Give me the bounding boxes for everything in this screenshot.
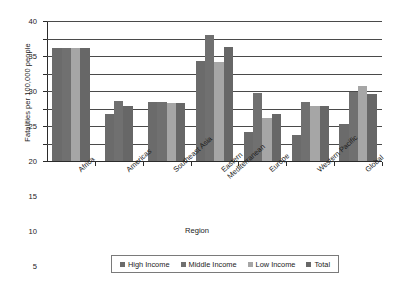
bar-group	[148, 21, 185, 161]
bar	[157, 102, 166, 161]
legend-label: High Income	[128, 260, 170, 269]
legend-swatch-icon	[306, 262, 311, 267]
y-tick-label: 30	[29, 87, 37, 96]
chart-legend: High IncomeMiddle IncomeLow IncomeTotal	[111, 255, 339, 273]
bar	[62, 48, 71, 161]
legend-swatch-icon	[181, 262, 186, 267]
legend-item[interactable]: High Income	[120, 260, 170, 269]
legend-item[interactable]: Middle Income	[181, 260, 237, 269]
bar	[123, 106, 132, 161]
y-tick-label: 5	[33, 262, 37, 271]
legend-item[interactable]: Total	[306, 260, 330, 269]
bar	[349, 92, 358, 161]
legend-label: Low Income	[256, 260, 296, 269]
y-tick-mark: 35	[43, 39, 47, 40]
y-tick-mark: 0	[43, 161, 47, 162]
y-tick-mark: 5	[43, 144, 47, 145]
legend-label: Middle Income	[189, 260, 237, 269]
chart-figure: Fatalities per 100,000 people 0510152025…	[0, 0, 394, 296]
bar	[224, 47, 233, 161]
bar	[80, 48, 89, 161]
bar-group	[52, 21, 89, 161]
bar	[176, 103, 185, 161]
y-tick-mark: 10	[43, 126, 47, 127]
y-tick-label: 15	[29, 192, 37, 201]
bar	[52, 48, 61, 161]
legend-swatch-icon	[120, 262, 125, 267]
bar	[367, 94, 376, 161]
bar	[105, 114, 114, 161]
y-tick-label: 20	[29, 157, 37, 166]
bar	[114, 101, 123, 161]
bar	[71, 48, 80, 161]
y-tick-label: 40	[29, 17, 37, 26]
y-tick-label: 25	[29, 122, 37, 131]
bar-group	[292, 21, 329, 161]
bar	[301, 102, 310, 161]
legend-label: Total	[314, 260, 330, 269]
y-tick-mark: 40	[43, 21, 47, 22]
y-tick-mark: 20	[43, 91, 47, 92]
bar	[320, 106, 329, 161]
bar	[358, 86, 367, 161]
x-axis-title: Region	[0, 226, 394, 235]
y-tick-label: 35	[29, 52, 37, 61]
bar-group	[105, 21, 133, 161]
bar	[310, 106, 319, 161]
y-tick-mark: 30	[43, 56, 47, 57]
y-tick-mark: 25	[43, 74, 47, 75]
legend-item[interactable]: Low Income	[248, 260, 296, 269]
bar	[167, 103, 176, 161]
bar	[262, 118, 271, 161]
legend-swatch-icon	[248, 262, 253, 267]
bar	[292, 135, 301, 161]
x-tick-mark	[191, 162, 192, 166]
y-tick-mark: 15	[43, 109, 47, 110]
bar	[272, 114, 281, 161]
bar	[214, 62, 223, 161]
